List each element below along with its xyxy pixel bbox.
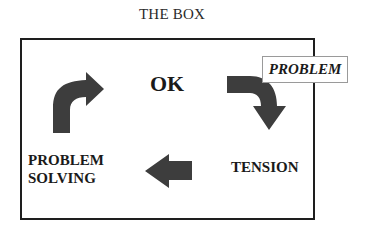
the-box-diagram: THE BOX OK PROBLEM TENSION PROBLEM SOLVI… xyxy=(0,0,372,229)
node-problem-solving: PROBLEM SOLVING xyxy=(28,151,104,187)
curved-arrow-up-right-icon xyxy=(53,72,104,133)
arrow-left-icon xyxy=(145,154,192,188)
node-problem: PROBLEM xyxy=(262,56,348,83)
curved-arrow-down-icon xyxy=(227,76,286,130)
node-problem-solving-line2: SOLVING xyxy=(28,169,104,187)
node-ok: OK xyxy=(150,71,184,97)
node-tension: TENSION xyxy=(231,159,299,176)
node-problem-solving-line1: PROBLEM xyxy=(28,151,104,169)
arrows-layer xyxy=(0,0,372,229)
